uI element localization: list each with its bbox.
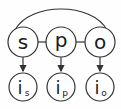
node-i-o: i o xyxy=(86,73,114,101)
graph-svg: s p o i s i p i o xyxy=(0,0,121,109)
svg-text:p: p xyxy=(62,88,68,98)
node-i-s: i s xyxy=(9,73,37,101)
svg-text:i: i xyxy=(94,77,99,98)
node-s: s xyxy=(8,27,38,57)
svg-text:s: s xyxy=(18,30,28,54)
diagram: s p o i s i p i o xyxy=(0,0,121,109)
svg-text:p: p xyxy=(55,28,68,52)
node-p: p xyxy=(46,27,76,57)
svg-text:o: o xyxy=(94,30,106,54)
svg-text:o: o xyxy=(101,88,107,98)
node-i-p: i p xyxy=(47,73,75,101)
svg-text:i: i xyxy=(55,77,60,98)
svg-text:i: i xyxy=(17,77,22,98)
svg-text:s: s xyxy=(25,88,30,98)
node-o: o xyxy=(85,27,115,57)
